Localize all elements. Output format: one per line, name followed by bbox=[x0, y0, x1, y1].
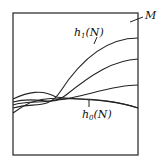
region-label: M bbox=[144, 9, 157, 22]
h1-label: h1(N) bbox=[74, 26, 104, 40]
diagram: M h1(N) h0(N) bbox=[0, 0, 163, 166]
curve-h1 bbox=[13, 38, 138, 108]
region-label-leader bbox=[130, 17, 143, 22]
curve-2 bbox=[13, 59, 138, 105]
h0-label: h0(N) bbox=[82, 108, 112, 122]
